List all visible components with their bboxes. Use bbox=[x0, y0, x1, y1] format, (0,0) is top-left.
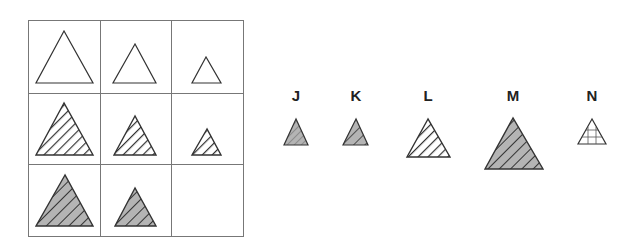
triangle-option-k-icon bbox=[343, 119, 368, 145]
option-label-l: L bbox=[423, 88, 432, 103]
option-n[interactable] bbox=[578, 119, 606, 144]
triangle-option-n-icon bbox=[578, 119, 606, 144]
option-l[interactable] bbox=[407, 119, 450, 157]
puzzle-canvas bbox=[0, 0, 642, 244]
triangle-option-j-icon bbox=[284, 119, 308, 145]
triangle-hatched-small-icon bbox=[192, 129, 221, 155]
option-label-j: J bbox=[292, 88, 300, 103]
triangle-outline-medium-icon bbox=[113, 44, 156, 83]
option-label-m: M bbox=[507, 88, 520, 103]
triangle-outline-small-icon bbox=[192, 57, 221, 83]
triangle-hatched-medium-icon bbox=[114, 116, 156, 155]
triangle-hatched-large-icon bbox=[36, 103, 93, 155]
option-m[interactable] bbox=[485, 118, 543, 169]
triangle-option-l-icon bbox=[407, 119, 450, 157]
option-k[interactable] bbox=[343, 119, 368, 145]
option-label-n: N bbox=[587, 88, 598, 103]
triangle-gray-hatched-medium-icon bbox=[115, 188, 156, 226]
option-label-k: K bbox=[351, 88, 362, 103]
triangle-option-m-icon bbox=[485, 118, 543, 169]
triangle-outline-large-icon bbox=[36, 31, 93, 83]
triangle-gray-hatched-large-icon bbox=[36, 175, 93, 226]
option-j[interactable] bbox=[284, 119, 308, 145]
